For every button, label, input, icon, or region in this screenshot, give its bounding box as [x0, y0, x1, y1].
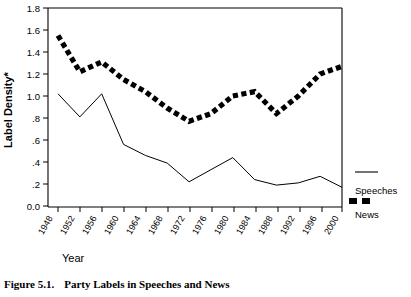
- series-line-speeches: [58, 94, 342, 188]
- x-tick-label: 1980: [212, 214, 231, 236]
- x-tick-label: 1972: [168, 214, 187, 236]
- y-tick-label: 1.2: [27, 69, 40, 80]
- x-tick-labels: 1948 1952 1956 1960 1964 1968 1972 1976 …: [36, 214, 341, 236]
- x-tick-label: 1968: [146, 214, 165, 236]
- x-tick-label: 1984: [234, 214, 253, 236]
- y-tick-marks: [43, 8, 48, 206]
- x-tick-label: 1988: [256, 214, 275, 236]
- x-tick-label: 1992: [278, 214, 297, 236]
- y-tick-label: 1.0: [27, 91, 40, 102]
- legend-label-speeches: Speeches: [355, 185, 398, 196]
- y-tick-label: .8: [32, 113, 40, 124]
- x-tick-label: 1960: [102, 214, 121, 236]
- legend-label-news: News: [355, 209, 379, 220]
- legend: Speeches News: [349, 172, 398, 220]
- x-axis-title: Year: [62, 252, 85, 264]
- y-tick-label: 1.4: [27, 47, 40, 58]
- x-tick-label: 1976: [190, 214, 209, 236]
- x-tick-label: 2000: [322, 214, 341, 236]
- x-tick-label: 1964: [124, 214, 143, 236]
- y-tick-label: .6: [32, 135, 40, 146]
- y-tick-label: 1.6: [27, 25, 40, 36]
- series-line-news: [58, 36, 342, 122]
- legend-swatch-news-icon: [349, 198, 370, 204]
- figure-caption: Figure 5.1.Party Labels in Speeches and …: [4, 278, 404, 290]
- x-tick-label: 1956: [80, 214, 99, 236]
- plot-frame: [48, 8, 342, 207]
- figure-caption-number: Figure 5.1.: [4, 278, 54, 290]
- x-tick-marks: [58, 207, 342, 212]
- x-tick-label: 1948: [36, 214, 55, 236]
- y-tick-label: 1.8: [27, 3, 40, 14]
- y-tick-label: 0.0: [27, 201, 40, 212]
- chart-canvas: 1.8 1.6 1.4 1.2 1.0 .8 .6 .4 .2 0.0 Labe…: [0, 0, 411, 265]
- y-axis-title: Label Density*: [2, 71, 14, 148]
- y-tick-label: .2: [32, 179, 40, 190]
- x-tick-label: 1952: [58, 214, 77, 236]
- x-tick-label: 1996: [300, 214, 319, 236]
- y-tick-labels: 1.8 1.6 1.4 1.2 1.0 .8 .6 .4 .2 0.0: [27, 3, 40, 212]
- figure-caption-text: Party Labels in Speeches and News: [64, 278, 229, 290]
- y-tick-label: .4: [32, 157, 40, 168]
- figure-container: 1.8 1.6 1.4 1.2 1.0 .8 .6 .4 .2 0.0 Labe…: [0, 0, 411, 297]
